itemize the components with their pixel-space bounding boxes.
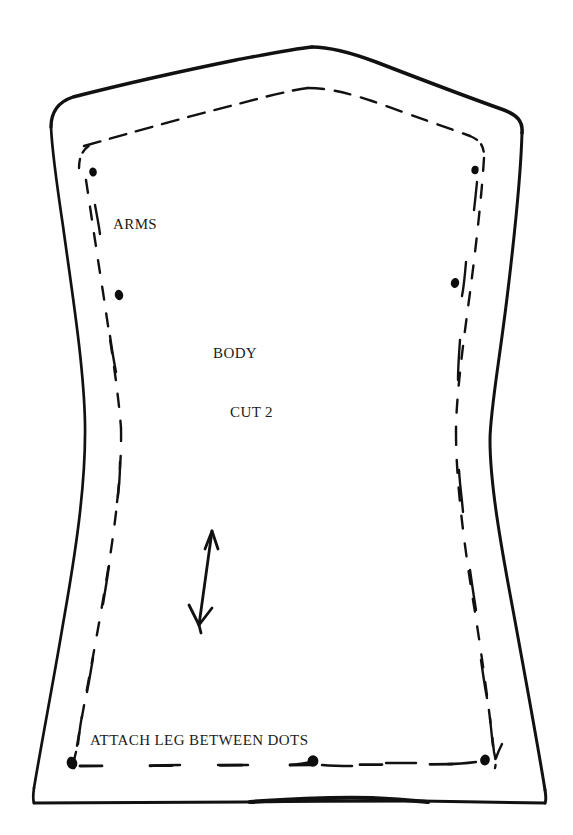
label-body: BODY — [213, 345, 257, 361]
pattern-drawing: ARMS BODY CUT 2 ATTACH LEG BETWEEN DOTS — [0, 0, 573, 835]
pattern-sheet: ARMS BODY CUT 2 ATTACH LEG BETWEEN DOTS — [0, 0, 573, 835]
dot-leg-center — [308, 755, 319, 767]
label-cut-quantity: CUT 2 — [230, 404, 273, 420]
label-arms: ARMS — [113, 216, 157, 232]
label-attach-leg: ATTACH LEG BETWEEN DOTS — [90, 732, 308, 748]
